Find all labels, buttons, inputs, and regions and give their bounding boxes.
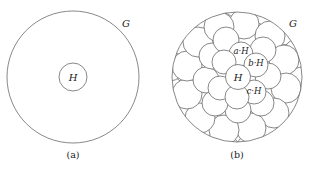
- panel-b: a·H b·H H c·H G (b): [151, 0, 313, 169]
- subgroup-h-label: H: [68, 72, 78, 83]
- caption-a: (a): [66, 149, 79, 160]
- group-g-label: G: [289, 18, 297, 29]
- caption-b: (b): [230, 149, 244, 160]
- panel-a: H G (a): [7, 11, 139, 160]
- subgroup-h-label: H: [233, 72, 243, 83]
- coset-b-label: b·H: [248, 58, 264, 68]
- coset-c-label: c·H: [247, 86, 262, 96]
- group-g-label: G: [122, 18, 130, 29]
- coset-a-label: a·H: [233, 46, 249, 56]
